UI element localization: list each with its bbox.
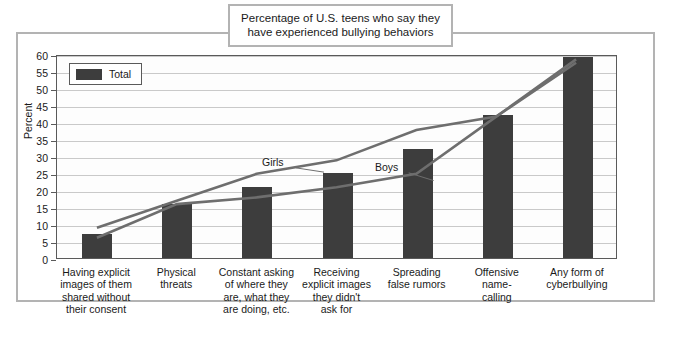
x-axis-label-line: Having explicit [56, 266, 136, 278]
x-axis-label-line: calling [457, 291, 537, 303]
x-axis-label: Having explicitimages of themshared with… [56, 266, 136, 316]
gridline [57, 124, 616, 125]
y-axis-tick-label: 50 [36, 85, 48, 95]
x-axis-label-line: they didn't [296, 291, 376, 303]
x-axis-label-line: are, what they [216, 291, 296, 303]
bar [162, 204, 192, 258]
x-axis-label-line: Spreading [377, 266, 457, 278]
gridline [57, 158, 616, 159]
gridline [57, 56, 616, 57]
bar [323, 173, 353, 258]
y-axis-tick [51, 192, 56, 193]
y-axis-tick [51, 260, 56, 261]
y-axis-tick [51, 73, 56, 74]
x-axis-label: Offensivename-calling [457, 266, 537, 303]
x-axis-label-line: Receiving [296, 266, 376, 278]
chart-legend: Total [69, 63, 142, 85]
y-axis-tick-label: 10 [36, 221, 48, 231]
x-axis-label-line: name- [457, 278, 537, 290]
bar [242, 187, 272, 258]
gridline [57, 107, 616, 108]
y-axis-tick-label: 5 [42, 238, 48, 248]
y-axis-tick [51, 141, 56, 142]
x-axis-label-line: Constant asking [216, 266, 296, 278]
y-axis-tick-label: 30 [36, 153, 48, 163]
chart-title-line-1: Percentage of U.S. teens who say they [236, 11, 445, 25]
bar [483, 115, 513, 258]
y-axis-tick [51, 209, 56, 210]
y-axis-tick-label: 25 [36, 170, 48, 180]
x-axis-label-line: explicit images [296, 278, 376, 290]
x-axis-label: Receivingexplicit imagesthey didn'task f… [296, 266, 376, 316]
x-axis-label-line: are doing, etc. [216, 303, 296, 315]
legend-label-total: Total [109, 68, 131, 80]
x-axis-label: Physicalthreats [136, 266, 216, 291]
y-axis-tick-label: 15 [36, 204, 48, 214]
y-axis-tick [51, 175, 56, 176]
y-axis-tick [51, 124, 56, 125]
y-axis-tick-label: 40 [36, 119, 48, 129]
x-axis-label-line: false rumors [377, 278, 457, 290]
y-axis-tick [51, 56, 56, 57]
plot-area: 051015202530354045505560 Total Girls Boy… [56, 55, 617, 259]
chart-title-line-2: have experienced bullying behaviors [236, 25, 445, 39]
gridline [57, 141, 616, 142]
series-annotation-girls: Girls [262, 156, 284, 168]
x-axis-label: Spreadingfalse rumors [377, 266, 457, 291]
x-axis-label-line: ask for [296, 303, 376, 315]
y-axis-tick [51, 158, 56, 159]
x-axis-label-line: threats [136, 278, 216, 290]
y-axis-tick-label: 20 [36, 187, 48, 197]
x-axis-label-line: images of them [56, 278, 136, 290]
bar [82, 234, 112, 258]
x-axis-label-line: Physical [136, 266, 216, 278]
y-axis-tick [51, 90, 56, 91]
bar [563, 57, 593, 258]
x-axis-label-line: cyberbullying [537, 278, 617, 290]
y-axis-tick-label: 45 [36, 102, 48, 112]
girls-leader-line [296, 168, 324, 172]
y-axis-tick-label: 55 [36, 68, 48, 78]
bar [403, 149, 433, 258]
gridline [57, 90, 616, 91]
legend-swatch-total [76, 69, 102, 80]
x-axis-label: Any form ofcyberbullying [537, 266, 617, 291]
y-axis-tick-label: 60 [36, 51, 48, 61]
x-axis-label-line: their consent [56, 303, 136, 315]
y-axis-tick [51, 107, 56, 108]
x-axis-label-line: Any form of [537, 266, 617, 278]
series-annotation-boys: Boys [375, 161, 398, 173]
x-axis-label-line: Offensive [457, 266, 537, 278]
y-axis-tick-label: 0 [42, 255, 48, 265]
y-axis-tick-label: 35 [36, 136, 48, 146]
x-axis-label-line: shared without [56, 291, 136, 303]
y-axis-title: Percent [22, 103, 34, 139]
x-axis-label-line: of where they [216, 278, 296, 290]
chart-title: Percentage of U.S. teens who say they ha… [228, 4, 453, 47]
y-axis-tick [51, 243, 56, 244]
y-axis-tick [51, 226, 56, 227]
x-axis-label: Constant askingof where theyare, what th… [216, 266, 296, 316]
